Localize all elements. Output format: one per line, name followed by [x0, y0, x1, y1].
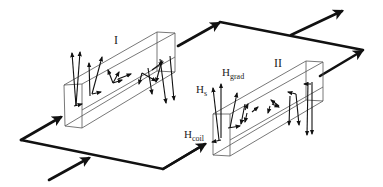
arrow-into-section-I — [21, 117, 61, 140]
arrow-out-of-section-I — [178, 23, 219, 46]
h-coil-label: Hcoil — [184, 129, 204, 143]
h-s-main: H — [196, 83, 204, 95]
section-I-label: I — [114, 34, 118, 46]
incoming-current-arrow — [49, 158, 89, 180]
section-II-field-vectors — [212, 82, 312, 142]
section-II-label: II — [274, 57, 282, 69]
outgoing-current-arrow — [291, 11, 342, 35]
section-I-box — [64, 32, 175, 128]
h-grad-main: H — [222, 66, 230, 78]
h-s-sub: s — [204, 89, 207, 98]
h-coil-main: H — [184, 128, 192, 140]
h-grad-sub: grad — [230, 72, 244, 81]
section-I-field-vectors — [72, 52, 174, 106]
h-coil-sub: coil — [192, 134, 204, 143]
h-s-label: Hs — [196, 84, 207, 98]
arrow-out-of-section-II — [320, 51, 362, 76]
h-grad-label: Hgrad — [222, 67, 244, 81]
diagram-canvas — [0, 0, 383, 187]
bottom-current-loop — [21, 117, 205, 180]
arrow-into-section-II — [163, 144, 205, 169]
top-current-loop — [178, 11, 363, 76]
